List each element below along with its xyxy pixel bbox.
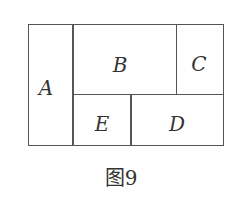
divider-b-c [176, 24, 178, 94]
region-label-b: B [113, 53, 128, 77]
divider-e-d [130, 94, 132, 146]
figure-caption: 图9 [105, 162, 138, 191]
region-label-e: E [95, 112, 110, 136]
divider-horizontal [72, 94, 224, 96]
region-label-c: C [191, 52, 206, 76]
outer-rectangle [28, 24, 224, 146]
divider-a [72, 24, 74, 146]
region-label-a: A [39, 76, 53, 100]
region-label-d: D [169, 112, 185, 136]
